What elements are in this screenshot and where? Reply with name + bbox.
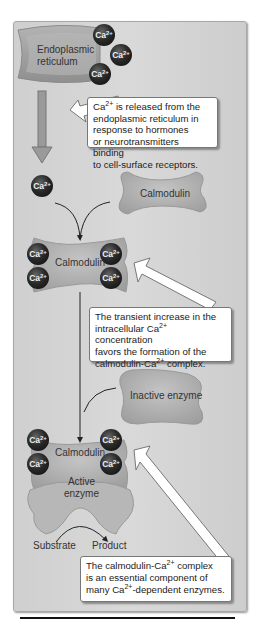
- callout-line: calmodulin-Ca2+ complex.: [95, 358, 226, 370]
- calcium-ion: Ca2+: [89, 63, 111, 85]
- ion-to-complex-arrow-icon: [55, 203, 80, 238]
- calmodulin-free-label: Calmodulin: [140, 188, 190, 199]
- calcium-ion: Ca2+: [27, 267, 49, 289]
- calcium-ion: Ca2+: [100, 429, 122, 451]
- calcium-ion: Ca2+: [110, 44, 132, 66]
- enzyme-join-arrow-icon: [84, 388, 116, 412]
- callout-pointer-3-icon: [134, 446, 232, 566]
- calmodulin-enzyme-label: Calmodulin: [55, 447, 105, 458]
- callout-line: intracellular Ca2+ concentration: [95, 323, 226, 346]
- calcium-ion: Ca2+: [27, 453, 49, 475]
- calcium-ion: Ca2+: [100, 453, 122, 475]
- callout-release: Ca2+ is released from the endoplasmic re…: [87, 97, 218, 148]
- active-enzyme-label-line: enzyme: [64, 488, 99, 500]
- callout-line: Ca2+ is released from the: [93, 101, 212, 113]
- callout-line: response to hormones: [93, 124, 212, 136]
- callout-line: or neurotransmitters binding: [93, 136, 212, 159]
- callout-line: endoplasmic reticulum in: [93, 113, 212, 125]
- calcium-ion: Ca2+: [93, 24, 115, 46]
- inactive-enzyme-label: Inactive enzyme: [130, 390, 202, 401]
- callout-line: The calmodulin-Ca2+ complex: [86, 560, 226, 572]
- calmodulin-bound-label: Calmodulin: [55, 257, 105, 268]
- active-enzyme-label: Active enzyme: [64, 476, 99, 500]
- callout-line: is an essential component of: [86, 572, 226, 584]
- figure-bottom-rule: [20, 617, 235, 619]
- callout-complex-formation: The transient increase in the intracellu…: [89, 307, 232, 362]
- product-label: Product: [92, 540, 126, 551]
- active-enzyme-label-line: Active: [64, 476, 99, 488]
- callout-line: to cell-surface receptors.: [93, 159, 212, 171]
- calcium-ion: Ca2+: [27, 243, 49, 265]
- er-label: Endoplasmic reticulum: [37, 44, 94, 68]
- substrate-label: Substrate: [33, 540, 76, 551]
- calcium-ion: Ca2+: [27, 429, 49, 451]
- release-arrow-icon: [32, 91, 52, 163]
- calcium-ion: Ca2+: [31, 175, 53, 197]
- callout-pointer-2-icon: [134, 258, 216, 310]
- er-label-line: Endoplasmic: [37, 44, 94, 56]
- callout-enzyme-component: The calmodulin-Ca2+ complex is an essent…: [80, 556, 232, 602]
- calmodulin-to-complex-arrow-icon: [80, 202, 110, 238]
- callout-line: many Ca2+-dependent enzymes.: [86, 584, 226, 596]
- er-label-line: reticulum: [37, 56, 94, 68]
- calcium-ion: Ca2+: [100, 267, 122, 289]
- calcium-ion: Ca2+: [100, 243, 122, 265]
